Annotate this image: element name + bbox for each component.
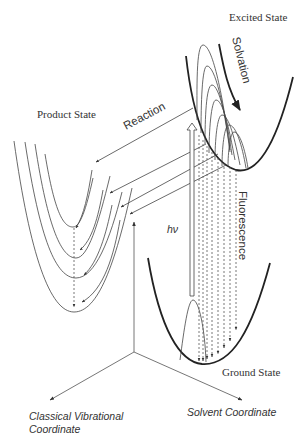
product-curve-1 [45,154,93,227]
solvation-label: Solvation [230,36,253,85]
vibrational-axis [50,352,134,400]
ground-state-curve [148,258,270,364]
vibrational-axis-label-line1: Classical Vibrational [29,410,124,422]
relax-arrow-2 [80,190,103,250]
product-curve-4 [14,141,132,312]
reaction-label: Reaction [121,100,167,132]
ground-state-surface [148,258,270,364]
ground-state-label: Ground State [222,366,280,378]
photoreaction-diagram: Excited State Product State Ground State… [0,0,305,441]
vibrational-axis-label-line2: Coordinate [29,423,81,435]
excited-state-label: Excited State [229,11,287,23]
wavepacket-6 [222,125,246,168]
hv-label: hν [167,223,179,235]
reaction-arrows [96,108,226,214]
solvent-axis-label: Solvent Coordinate [187,406,276,418]
product-state-label: Product State [37,108,96,120]
product-state-surface [14,141,132,312]
ground-wavepacket [180,300,206,362]
reaction-arrow-3 [121,154,218,207]
relax-arrow-4 [82,220,120,302]
fluorescence-label: Fluorescence [237,191,249,260]
relax-arrow-1 [76,170,92,228]
